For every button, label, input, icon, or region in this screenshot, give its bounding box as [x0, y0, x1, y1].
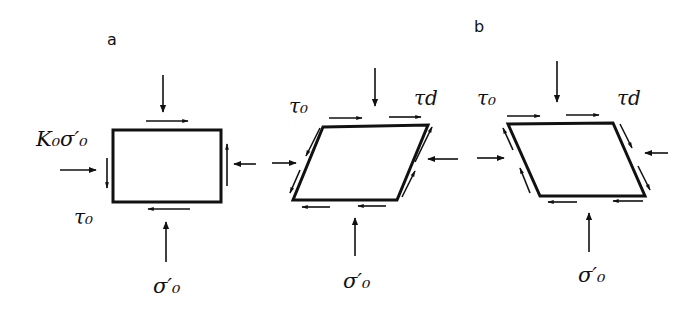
label-tau0: τ₀: [74, 205, 93, 229]
label-sigma0: σ′₀: [153, 274, 181, 298]
panel-label-a: a: [107, 30, 117, 49]
element-a: K₀σ′₀ τ₀ σ′₀: [35, 75, 256, 298]
label-tau-d: τd: [414, 86, 438, 110]
label-tau0: τ₀: [289, 94, 308, 118]
label-sigma0: σ′₀: [578, 263, 606, 287]
panel-label-b: b: [474, 17, 484, 36]
soil-element-rectangle: [113, 130, 221, 202]
soil-element-parallelogram-right: [293, 125, 428, 200]
label-tau0: τ₀: [477, 86, 496, 110]
label-k0-sigma0: K₀σ′₀: [35, 127, 88, 151]
label-tau-d: τd: [617, 86, 641, 110]
label-sigma0: σ′₀: [343, 269, 371, 293]
element-b-left: τ₀ τd σ′₀: [272, 68, 458, 293]
stress-element-diagram: a b K₀σ′₀ τ₀ σ′₀: [0, 0, 698, 312]
element-b-right: τ₀ τd σ′₀: [477, 61, 668, 287]
